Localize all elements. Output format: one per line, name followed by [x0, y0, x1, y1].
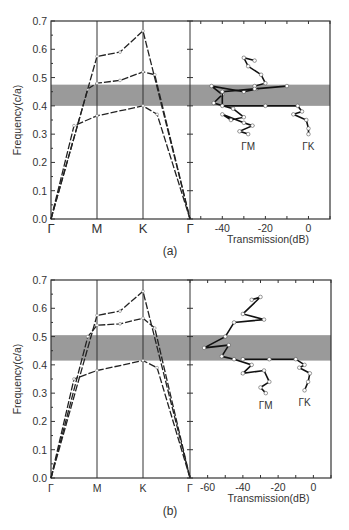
- y-tick-label: 0.6: [32, 302, 47, 314]
- plot-frame: [51, 280, 331, 478]
- y-tick-label: 0.6: [32, 43, 47, 55]
- panel-b: 0.00.10.20.30.40.50.60.7Frequency(c/a)ΓM…: [11, 274, 331, 504]
- band-curve: [51, 361, 190, 478]
- y-tick-label: 0.1: [32, 185, 47, 197]
- y-tick-label: 0.1: [32, 444, 47, 456]
- y-axis-label: Frequency(c/a): [11, 85, 23, 156]
- y-tick-label: 0.7: [32, 15, 47, 27]
- x-category-label: M: [93, 482, 102, 494]
- curve-annotation: ΓM: [259, 400, 273, 411]
- y-axis-label: Frequency(c/a): [11, 344, 23, 415]
- x-tick-label: -60: [200, 481, 215, 493]
- x-tick-label: 0: [310, 481, 316, 493]
- y-tick-label: 0.0: [32, 472, 47, 484]
- x-category-label: Γ: [187, 482, 193, 494]
- y-tick-label: 0.5: [32, 72, 47, 84]
- panel-a: 0.00.10.20.30.40.50.60.7Frequency(c/a)ΓM…: [11, 15, 330, 245]
- x-axis-label: Transmission(dB): [227, 233, 309, 245]
- x-category-label: Γ: [48, 482, 54, 494]
- y-tick-label: 0.4: [32, 359, 47, 371]
- y-tick-label: 0.2: [32, 156, 47, 168]
- curve-annotation: ΓK: [302, 141, 315, 152]
- band-curve: [51, 291, 190, 478]
- x-axis-label: Transmission(dB): [228, 492, 310, 504]
- caption-a: (a): [163, 244, 178, 258]
- band-curve: [51, 31, 190, 219]
- y-tick-label: 0.7: [32, 274, 47, 286]
- y-tick-label: 0.3: [32, 128, 47, 140]
- figure: 0.00.10.20.30.40.50.60.7Frequency(c/a)ΓM…: [0, 0, 349, 530]
- x-category-label: Γ: [186, 221, 193, 236]
- y-tick-label: 0.3: [32, 387, 47, 399]
- band-curve: [51, 106, 190, 219]
- x-category-label: K: [139, 221, 148, 236]
- caption-b: (b): [163, 504, 178, 518]
- x-category-label: Γ: [47, 221, 54, 236]
- y-tick-label: 0.0: [32, 213, 47, 225]
- band-gap-region: [51, 335, 331, 360]
- y-tick-label: 0.2: [32, 415, 47, 427]
- curve-annotation: ΓK: [298, 397, 311, 408]
- y-tick-label: 0.5: [32, 331, 47, 343]
- x-category-label: K: [139, 482, 146, 494]
- x-category-label: M: [92, 221, 103, 236]
- curve-annotation: ΓM: [241, 141, 255, 152]
- y-tick-label: 0.4: [32, 100, 47, 112]
